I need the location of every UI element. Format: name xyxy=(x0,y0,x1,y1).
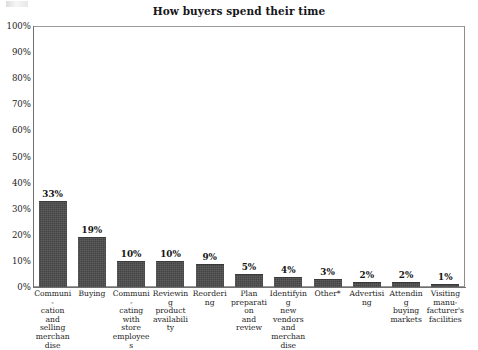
bar-group: 4% xyxy=(274,26,302,287)
x-axis-category-label: Reordering xyxy=(191,290,228,307)
bars-layer: 33%19%10%10%9%5%4%3%2%2%1% xyxy=(33,26,465,287)
bar-group: 9% xyxy=(196,26,224,287)
bar xyxy=(353,282,381,287)
bar xyxy=(39,201,67,287)
bar-group: 2% xyxy=(353,26,381,287)
x-axis-line xyxy=(33,287,466,288)
chart-title: How buyers spend their time xyxy=(0,5,478,17)
y-axis-tick-label: 100% xyxy=(1,21,31,31)
bar xyxy=(78,237,106,287)
y-axis-tick-label: 60% xyxy=(1,125,31,135)
x-axis-category-label: Other* xyxy=(309,290,346,299)
bar xyxy=(117,261,145,287)
y-axis-tick-label: 50% xyxy=(1,152,31,162)
bar-value-label: 19% xyxy=(66,225,118,235)
bar xyxy=(392,282,420,287)
bar-value-label: 9% xyxy=(184,252,236,262)
bar-value-label: 1% xyxy=(419,272,471,282)
bar-group: 5% xyxy=(235,26,263,287)
bar xyxy=(274,277,302,287)
bar xyxy=(431,284,459,287)
bar-group: 33% xyxy=(39,26,67,287)
y-axis-labels: 100%90%80%70%60%50%40%30%20%10%0% xyxy=(0,0,31,342)
x-axis-category-label: Attendingbuyingmarkets xyxy=(387,290,424,324)
y-axis-tick-label: 10% xyxy=(1,256,31,266)
y-axis-tick-label: 20% xyxy=(1,230,31,240)
y-axis-tick-label: 90% xyxy=(1,47,31,57)
x-axis-category-label: Communi-cation andsellingmerchandise xyxy=(34,290,71,350)
bar-group: 19% xyxy=(78,26,106,287)
y-axis-tick-label: 0% xyxy=(1,282,31,292)
x-axis-category-label: Visitingmanu-facturer'sfacilities xyxy=(427,290,464,324)
bar-group: 10% xyxy=(117,26,145,287)
bar-group: 1% xyxy=(431,26,459,287)
bar-group: 2% xyxy=(392,26,420,287)
x-axis-labels: Communi-cation andsellingmerchandiseBuyi… xyxy=(33,290,465,342)
bar xyxy=(196,264,224,287)
y-axis-tick-label: 40% xyxy=(1,178,31,188)
bar-group: 10% xyxy=(156,26,184,287)
y-axis-tick-label: 70% xyxy=(1,99,31,109)
x-axis-category-label: Planpreparationand review xyxy=(230,290,267,333)
x-axis-category-label: Identifyingnewvendorsandmerchandise xyxy=(270,290,307,350)
x-axis-category-label: Advertising xyxy=(348,290,385,307)
bar-group: 3% xyxy=(314,26,342,287)
x-axis-category-label: Reviewingproductavailability xyxy=(152,290,189,333)
x-axis-category-label: Buying xyxy=(73,290,110,299)
y-axis-tick-label: 80% xyxy=(1,73,31,83)
x-axis-category-label: Communi-cating withstoreemployees xyxy=(113,290,150,350)
bar xyxy=(235,274,263,287)
bar-value-label: 33% xyxy=(27,189,79,199)
bar xyxy=(314,279,342,287)
y-axis-tick-label: 30% xyxy=(1,204,31,214)
bar xyxy=(156,261,184,287)
